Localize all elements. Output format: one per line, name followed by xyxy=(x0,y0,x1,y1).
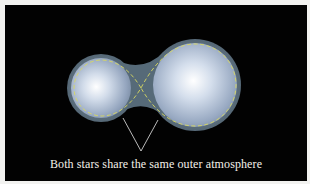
pointer-lines xyxy=(123,118,158,151)
diagram-panel: Both stars share the same outer atmosphe… xyxy=(5,5,307,181)
contact-binary-illustration xyxy=(5,5,307,181)
diagram-caption: Both stars share the same outer atmosphe… xyxy=(5,157,307,172)
